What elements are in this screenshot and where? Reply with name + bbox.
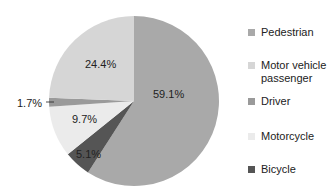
swatch xyxy=(248,29,255,36)
legend-label: Pedestrian xyxy=(261,26,314,39)
label-passenger: 24.4% xyxy=(85,58,116,70)
label-driver: 1.7% xyxy=(17,97,42,109)
legend-label-line1: Motor vehicle xyxy=(261,59,326,71)
label-pedestrian: 59.1% xyxy=(153,88,184,100)
legend-label-line2: passenger xyxy=(261,72,312,84)
legend-item-driver: Driver xyxy=(248,95,290,108)
legend-label: Motorcycle xyxy=(261,130,314,143)
label-motorcycle: 9.7% xyxy=(72,113,97,125)
swatch xyxy=(248,133,255,140)
legend-item-motorcycle: Motorcycle xyxy=(248,130,314,143)
swatch xyxy=(248,98,255,105)
label-bicycle: 5.1% xyxy=(76,148,101,160)
swatch xyxy=(248,62,255,69)
legend-item-pedestrian: Pedestrian xyxy=(248,26,314,39)
swatch xyxy=(248,166,255,173)
legend-item-bicycle: Bicycle xyxy=(248,163,296,176)
legend-item-passenger: Motor vehicle passenger xyxy=(248,59,326,85)
legend-label: Driver xyxy=(261,95,290,108)
legend-label: Motor vehicle passenger xyxy=(261,59,326,85)
legend-label: Bicycle xyxy=(261,163,296,176)
